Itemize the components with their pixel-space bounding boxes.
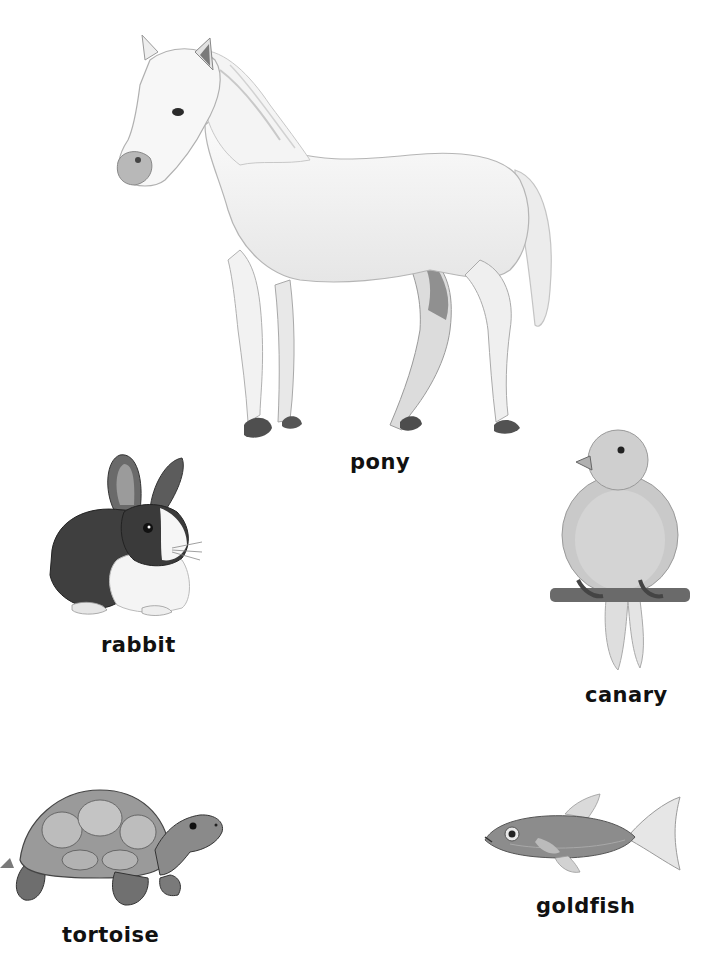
canary-illustration bbox=[548, 420, 693, 672]
goldfish-label: goldfish bbox=[536, 896, 635, 917]
canary-label: canary bbox=[585, 685, 668, 706]
rabbit-label: rabbit bbox=[101, 635, 176, 656]
pony-label: pony bbox=[350, 452, 410, 473]
goldfish-illustration bbox=[480, 792, 685, 880]
pony-illustration bbox=[110, 30, 570, 455]
tortoise-label: tortoise bbox=[62, 925, 159, 946]
pets-page: pony rabbit bbox=[0, 0, 709, 976]
tortoise-illustration bbox=[0, 780, 228, 908]
rabbit-illustration bbox=[42, 450, 207, 618]
